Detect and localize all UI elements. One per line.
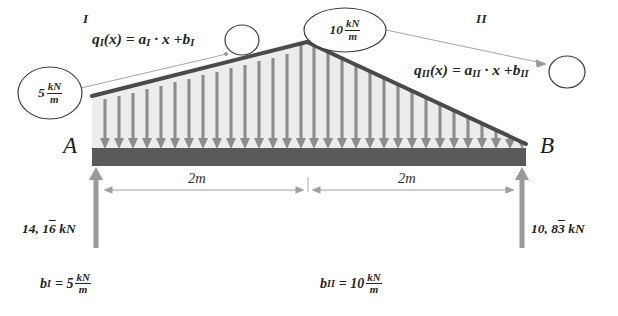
coefficient-b-one-unit: kN m: [75, 272, 90, 295]
load-intensity-peak-unit-num: kN: [345, 18, 360, 29]
reaction-right-repeating: 3: [558, 221, 565, 236]
equation-two-tail: · x +: [481, 61, 513, 78]
coefficient-b-two-unit: kN m: [366, 272, 381, 295]
callout-circle-b-two: [549, 56, 585, 88]
coefficient-b-one-unit-den: m: [75, 283, 90, 295]
load-intensity-left-unit-den: m: [47, 93, 62, 105]
equation-region-one: qI(x) = aI · x +bI: [92, 31, 194, 49]
coefficient-b-one-sub: I: [47, 279, 51, 289]
dimension-line-left: [105, 187, 303, 193]
leader-line-region-one-equation: [214, 52, 228, 57]
region-two-label: II: [476, 12, 487, 25]
equation-one-body: (x) = a: [104, 30, 146, 47]
load-intensity-peak-value: 10: [330, 22, 344, 38]
equation-two-lhs-sub: II: [422, 68, 430, 79]
equation-one-lhs: q: [92, 30, 100, 47]
load-intensity-left-unit: kN m: [47, 81, 62, 104]
coefficient-b-two-sub: II: [327, 279, 335, 289]
region-one-label: I: [83, 12, 89, 25]
coefficient-b-one-symbol: b: [40, 277, 47, 291]
reaction-left-whole: 14, 1: [22, 221, 49, 236]
load-intensity-left-callout: 5 kN m: [18, 79, 82, 107]
equation-one-circled-sub: I: [190, 37, 194, 48]
dimension-label-left: 2m: [188, 171, 206, 186]
coefficient-b-two-unit-den: m: [366, 283, 381, 295]
node-label-a: A: [63, 134, 77, 157]
equation-one-tail: · x +: [150, 30, 182, 47]
callout-circle-b-one: [225, 25, 259, 55]
coefficient-b-two-symbol: b: [320, 277, 327, 291]
coefficient-b-one-eq: = 5: [55, 277, 73, 291]
coefficient-b-one: bI = 5 kN m: [40, 272, 91, 295]
load-intensity-peak-callout: 10 kN m: [310, 16, 380, 44]
load-fill-region-one: [92, 42, 307, 148]
equation-region-two: qII(x) = aII · x +bII: [414, 62, 529, 80]
coefficient-b-two-unit-num: kN: [366, 272, 381, 283]
equation-two-lhs: q: [414, 61, 422, 78]
reaction-label-right: 10, 83 kN: [531, 222, 585, 236]
load-intensity-peak-unit: kN m: [345, 18, 360, 41]
reaction-right-whole: 10, 8: [531, 221, 558, 236]
load-intensity-left-unit-num: kN: [47, 81, 62, 92]
coefficient-b-one-unit-num: kN: [75, 272, 90, 283]
reaction-left-repeating: 6: [49, 221, 56, 236]
load-intensity-peak-unit-den: m: [345, 30, 360, 42]
dimension-label-right: 2m: [398, 171, 416, 186]
load-intensity-left-value: 5: [38, 85, 45, 101]
equation-two-body-sub: II: [472, 68, 480, 79]
equation-two-body: (x) = a: [430, 61, 472, 78]
beam-load-diagram: I II A B qI(x) = aI · x +bI qII(x) = aII…: [0, 0, 618, 316]
coefficient-b-two: bII = 10 kN m: [320, 272, 382, 295]
equation-two-circled-sub: II: [520, 68, 528, 79]
reaction-right-unit: kN: [565, 221, 585, 236]
coefficient-b-two-eq: = 10: [339, 277, 364, 291]
reaction-label-left: 14, 16 kN: [22, 222, 76, 236]
node-label-b: B: [540, 134, 554, 157]
support-reaction-left: [89, 167, 103, 248]
reaction-left-unit: kN: [56, 221, 76, 236]
dimension-line-right: [313, 187, 513, 193]
beam: [92, 148, 526, 166]
support-reaction-right: [515, 167, 529, 248]
